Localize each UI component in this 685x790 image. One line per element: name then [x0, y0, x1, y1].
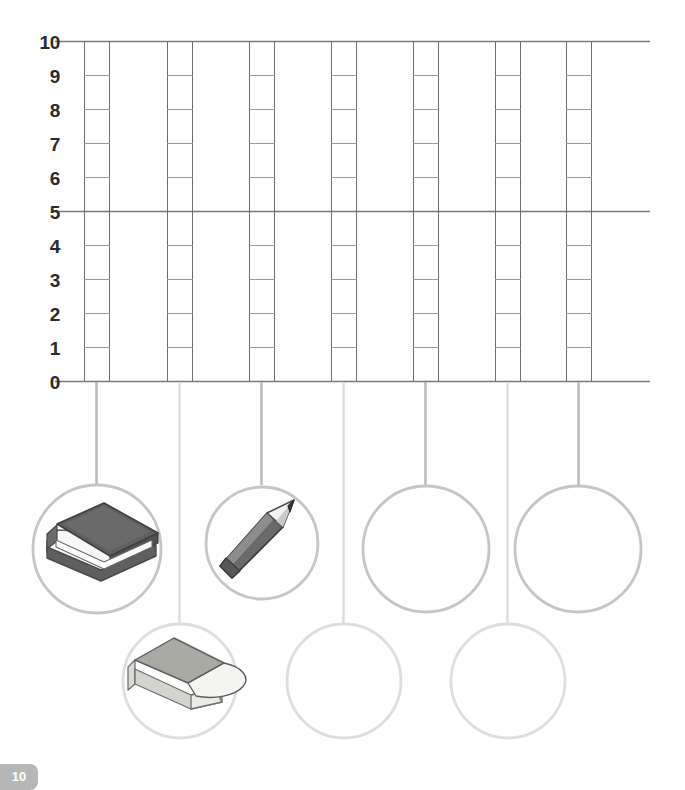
y-axis-label-3: 3 — [26, 271, 60, 290]
y-axis-label-6: 6 — [26, 169, 60, 188]
empty-circle-icon — [287, 624, 401, 738]
category-circle-pencil[interactable] — [206, 487, 318, 599]
y-axis-label-9: 9 — [26, 67, 60, 86]
category-circles-top-row — [33, 485, 641, 613]
category-circle-blank-3[interactable] — [287, 624, 401, 738]
category-circle-blank-1[interactable] — [363, 486, 489, 612]
empty-circle-icon — [451, 624, 565, 738]
y-axis-label-4: 4 — [26, 237, 60, 256]
y-axis-label-0: 0 — [26, 373, 60, 392]
empty-circle-icon — [363, 486, 489, 612]
y-axis-label-5: 5 — [26, 203, 60, 222]
y-axis-label-2: 2 — [26, 305, 60, 324]
category-circles-bottom-row — [123, 624, 565, 738]
y-axis-label-10: 10 — [26, 33, 60, 52]
category-circle-blank-2[interactable] — [515, 486, 641, 612]
y-axis-label-1: 1 — [26, 339, 60, 358]
category-circle-blank-4[interactable] — [451, 624, 565, 738]
empty-circle-icon — [515, 486, 641, 612]
category-circle-book[interactable] — [33, 485, 161, 613]
connector-lines — [97, 382, 579, 624]
plot-area — [55, 41, 650, 382]
category-circle-eraser[interactable] — [123, 624, 246, 738]
page-number-badge: 10 — [0, 764, 38, 790]
y-axis-label-7: 7 — [26, 135, 60, 154]
y-axis-label-8: 8 — [26, 101, 60, 120]
